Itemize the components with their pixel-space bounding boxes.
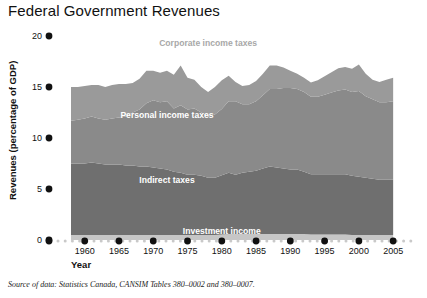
x-tick-dot xyxy=(390,238,397,245)
x-axis-minor-dot xyxy=(136,240,139,243)
x-tick-label: 2000 xyxy=(349,246,369,256)
x-axis-minor-dot xyxy=(100,240,103,243)
x-axis-minor-dot xyxy=(193,240,196,243)
x-axis-minor-dot xyxy=(172,240,175,243)
y-tick-label: 0 xyxy=(37,235,42,245)
x-axis-minor-dot xyxy=(179,240,182,243)
x-tick-dot xyxy=(355,238,362,245)
x-tick-label: 1980 xyxy=(212,246,232,256)
x-axis-minor-dot xyxy=(129,240,132,243)
x-axis-minor-dot xyxy=(78,240,81,243)
x-tick-label: 1975 xyxy=(178,246,198,256)
x-tick-dot xyxy=(218,238,225,245)
x-tick-dot xyxy=(184,238,191,245)
x-axis-minor-dot xyxy=(316,240,319,243)
x-axis-minor-dot xyxy=(381,240,384,243)
x-axis-minor-dot xyxy=(215,240,218,243)
x-axis-minor-dot xyxy=(229,240,232,243)
y-tick-label: 10 xyxy=(32,133,42,143)
x-axis-minor-dot xyxy=(294,240,297,243)
x-axis-minor-dot xyxy=(366,240,369,243)
series-annotation: Indirect taxes xyxy=(139,175,195,185)
y-tick-label: 15 xyxy=(32,82,42,92)
x-axis-minor-dot xyxy=(93,240,96,243)
x-axis-minor-dot xyxy=(237,240,240,243)
x-tick-label: 1965 xyxy=(109,246,129,256)
x-tick-dot xyxy=(287,238,294,245)
x-axis-minor-dot xyxy=(337,240,340,243)
x-axis-minor-dot xyxy=(309,240,312,243)
x-tick-label: 1995 xyxy=(315,246,335,256)
figure-container: Federal Government Revenues 051015201960… xyxy=(0,0,427,298)
x-tick-dot xyxy=(321,238,328,245)
series-annotation: Investment income xyxy=(183,226,261,236)
y-tick-dot xyxy=(46,186,53,193)
y-tick-dot xyxy=(46,84,53,91)
x-axis-minor-dot xyxy=(402,240,405,243)
y-tick-label: 20 xyxy=(32,31,42,41)
x-axis-title: Year xyxy=(71,259,91,270)
y-tick-dot xyxy=(46,33,53,40)
x-tick-label: 1970 xyxy=(143,246,163,256)
x-axis-minor-dot xyxy=(165,240,168,243)
series-annotation: Personal income taxes xyxy=(120,110,213,120)
x-axis-minor-dot xyxy=(409,240,412,243)
source-note: Source of data: Statistics Canada, CANSI… xyxy=(8,280,255,289)
x-axis-minor-dot xyxy=(143,240,146,243)
x-axis-minor-dot xyxy=(107,240,110,243)
x-axis-minor-dot xyxy=(330,240,333,243)
x-tick-dot xyxy=(253,238,260,245)
x-axis-minor-dot xyxy=(273,240,276,243)
x-axis-minor-dot xyxy=(373,240,376,243)
area-chart: 0510152019601965197019751980198519901995… xyxy=(0,0,427,298)
x-tick-label: 1985 xyxy=(246,246,266,256)
x-axis-minor-dot xyxy=(64,240,67,243)
x-axis-minor-dot xyxy=(345,240,348,243)
series-annotation: Corporate income taxes xyxy=(159,38,257,48)
x-axis-minor-dot xyxy=(301,240,304,243)
y-tick-dot xyxy=(46,135,53,142)
x-axis-origin-dot xyxy=(46,238,53,245)
x-axis-minor-dot xyxy=(157,240,160,243)
x-axis-minor-dot xyxy=(201,240,204,243)
x-axis-minor-dot xyxy=(280,240,283,243)
x-axis-minor-dot xyxy=(244,240,247,243)
x-axis-minor-dot xyxy=(265,240,268,243)
y-tick-label: 5 xyxy=(37,184,42,194)
x-axis-minor-dot xyxy=(352,240,355,243)
x-tick-dot xyxy=(116,238,123,245)
x-axis-minor-dot xyxy=(57,240,60,243)
x-tick-label: 2005 xyxy=(383,246,403,256)
y-axis-title: Revenues (percentage of GDP) xyxy=(7,61,18,200)
x-tick-label: 1960 xyxy=(75,246,95,256)
x-axis-minor-dot xyxy=(208,240,211,243)
x-tick-dot xyxy=(81,238,88,245)
x-axis-minor-dot xyxy=(71,240,74,243)
x-tick-dot xyxy=(150,238,157,245)
x-tick-label: 1990 xyxy=(280,246,300,256)
